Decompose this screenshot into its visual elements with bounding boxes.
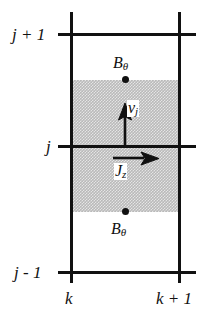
b-theta-bottom-symbol: B: [111, 220, 121, 237]
axis-label-j-minus-1: j - 1: [14, 264, 41, 281]
node-dot-b-theta-top: [122, 76, 129, 83]
b-theta-top-subscript: θ: [123, 60, 128, 72]
current-subscript: z: [122, 168, 126, 180]
grid-line-j-minus-1: [58, 271, 196, 274]
b-theta-bottom-subscript: θ: [121, 226, 126, 238]
axis-label-k: k: [65, 290, 73, 307]
axis-label-j-plus-1: j + 1: [12, 26, 45, 43]
b-theta-top-symbol: B: [113, 54, 123, 71]
axis-label-k-plus-1: k + 1: [156, 290, 192, 307]
grid-line-k-plus-1: [178, 12, 181, 283]
field-label-current: Jz: [114, 163, 127, 180]
node-dot-b-theta-bottom: [122, 208, 129, 215]
velocity-subscript: j: [135, 105, 138, 117]
field-label-b-theta-bottom: Bθ: [111, 221, 126, 238]
staggered-grid-cell-diagram: j + 1 j j - 1 k k + 1 Bθ vj Jz Bθ: [0, 0, 211, 319]
grid-line-j-plus-1: [58, 33, 196, 36]
field-label-b-theta-top: Bθ: [113, 55, 128, 72]
grid-line-k: [70, 12, 73, 283]
axis-label-j: j: [46, 138, 51, 155]
field-label-velocity: vj: [127, 100, 139, 117]
